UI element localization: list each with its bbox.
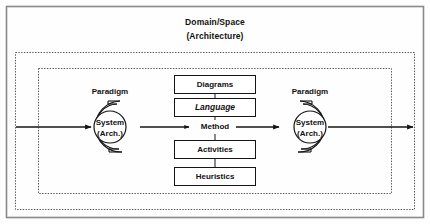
box-heuristics-label: Heuristics [196,172,235,181]
right-system-label-line2: (Arch.) [297,129,323,138]
diagram-title-line1: Domain/Space [185,17,245,27]
box-language-label: Language [195,102,235,112]
right-paradigm-label: Paradigm [292,87,328,96]
left-system-label-line1: System [96,118,124,127]
box-activities-label: Activities [197,145,233,154]
diagram-title-line2: (Architecture) [186,31,243,41]
box-diagrams-label: Diagrams [197,80,234,89]
diagram-canvas: Domain/Space (Architecture) [0,0,430,224]
left-system-label-line2: (Arch.) [97,129,123,138]
left-paradigm-label: Paradigm [92,87,128,96]
method-label: Method [201,122,230,131]
diagram-figure: Domain/Space (Architecture) [0,0,430,224]
right-system-label-line1: System [296,118,324,127]
